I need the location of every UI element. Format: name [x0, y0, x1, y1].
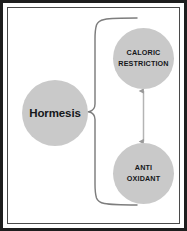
node-hormesis-label: Hormesis	[26, 107, 84, 119]
node-caloric-restriction-label: CALORICRESTRICTION	[115, 48, 171, 69]
node-caloric-restriction[interactable]: CALORICRESTRICTION	[113, 28, 174, 89]
node-anti-oxidant[interactable]: ANTIOXIDANT	[113, 143, 174, 204]
node-anti-oxidant-label: ANTIOXIDANT	[124, 163, 163, 184]
node-hormesis[interactable]: Hormesis	[22, 80, 88, 146]
figure-frame: Hormesis CALORICRESTRICTION ANTIOXIDANT	[0, 0, 187, 231]
